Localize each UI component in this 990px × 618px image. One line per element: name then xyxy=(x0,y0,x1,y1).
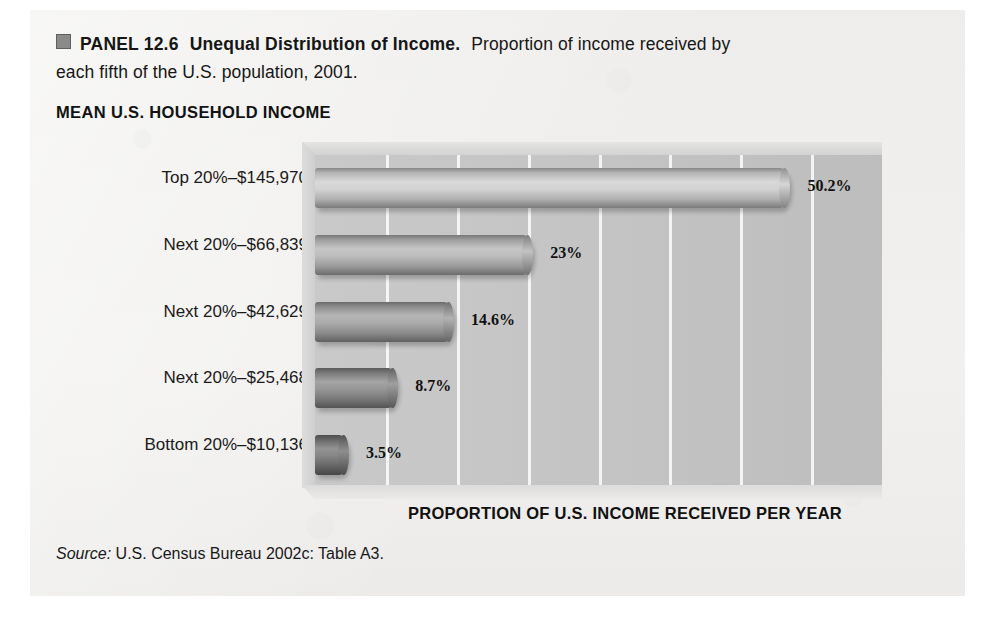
bar-value-label: 3.5% xyxy=(366,444,402,462)
source-label: Source: xyxy=(56,545,111,562)
plot-floor xyxy=(302,485,882,499)
category-label: Next 20%–$66,839 xyxy=(30,235,308,255)
bar-end-cap xyxy=(387,368,398,408)
bar-end-cap xyxy=(338,435,349,475)
x-axis-title: PROPORTION OF U.S. INCOME RECEIVED PER Y… xyxy=(315,504,935,523)
category-axis-labels: Top 20%–$145,970Next 20%–$66,839Next 20%… xyxy=(30,146,308,478)
source-note: Source: U.S. Census Bureau 2002c: Table … xyxy=(56,545,384,563)
category-label: Top 20%–$145,970 xyxy=(30,168,308,188)
bar-chart: Top 20%–$145,970Next 20%–$66,839Next 20%… xyxy=(30,128,965,498)
figure-panel: PANEL 12.6Unequal Distribution of Income… xyxy=(30,10,965,596)
bar xyxy=(315,235,532,275)
bar-end-cap xyxy=(522,235,533,275)
panel-title: Unequal Distribution of Income. xyxy=(190,34,461,54)
bar xyxy=(315,168,789,208)
figure-caption: PANEL 12.6Unequal Distribution of Income… xyxy=(56,30,756,86)
bar-value-label: 23% xyxy=(550,244,582,262)
plot-area: 50.2%23%14.6%8.7%3.5% xyxy=(302,142,882,488)
plot-side-wall xyxy=(302,142,315,488)
bar-end-cap xyxy=(443,302,454,342)
bar-value-label: 14.6% xyxy=(471,311,515,329)
plot-top-wall xyxy=(302,142,882,155)
source-text: U.S. Census Bureau 2002c: Table A3. xyxy=(116,545,384,562)
category-label: Bottom 20%–$10,136 xyxy=(30,435,308,455)
bar-end-cap xyxy=(779,168,790,208)
bar-value-label: 8.7% xyxy=(415,377,451,395)
bar-value-label: 50.2% xyxy=(807,177,851,195)
chart-heading: MEAN U.S. HOUSEHOLD INCOME xyxy=(56,103,331,122)
bar xyxy=(315,435,348,475)
panel-marker-icon xyxy=(56,34,71,49)
panel-number: PANEL 12.6 xyxy=(80,34,179,54)
bar xyxy=(315,368,397,408)
category-label: Next 20%–$25,468 xyxy=(30,368,308,388)
bar-series: 50.2%23%14.6%8.7%3.5% xyxy=(315,155,882,488)
bar xyxy=(315,302,453,342)
category-label: Next 20%–$42,629 xyxy=(30,302,308,322)
